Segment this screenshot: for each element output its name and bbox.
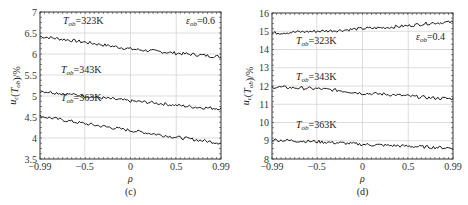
x-axis-label: ρ [127,173,133,184]
y-tick-label: 4.5 [25,112,38,123]
x-axis-label: ρ [359,173,365,184]
chart-panel-c: −0.99−0.500.50.993.544.555.566.57ρ(c)uc(… [7,7,230,199]
chart-panel-d: −0.99−0.500.50.998910111213141516ρ(d)uc(… [240,8,462,199]
y-tick-label: 3.5 [25,154,38,165]
x-tick-label: 0 [360,161,365,172]
x-tick-label: −0.5 [308,161,326,172]
y-axis-label: uc(Tob)/% [240,67,256,105]
y-tick-label: 6.5 [25,28,38,39]
y-axis-label: uc(Tob)/% [7,66,23,104]
y-tick-label: 13 [259,62,269,73]
x-tick-label: 0.5 [402,161,415,172]
y-tick-label: 14 [259,44,269,55]
y-tick-label: 10 [259,117,269,128]
panel-caption: (c) [125,186,136,198]
x-tick-label: 0 [128,161,133,172]
y-tick-label: 7 [32,7,37,18]
y-tick-label: 15 [259,26,269,37]
epsilon-annotation: εob=0.6 [186,15,215,28]
y-tick-label: 5.5 [25,70,38,81]
y-tick-label: 11 [259,99,269,110]
y-tick-label: 4 [32,133,37,144]
x-tick-label: 0.99 [212,161,230,172]
x-tick-label: 0.5 [170,161,183,172]
y-tick-label: 8 [264,154,269,165]
series-label: Tob=323K [63,15,104,28]
figure: −0.99−0.500.50.993.544.555.566.57ρ(c)uc(… [0,0,468,205]
y-tick-label: 9 [264,135,269,146]
panel-caption: (d) [357,186,369,198]
y-tick-label: 6 [32,49,37,60]
x-tick-label: −0.5 [76,161,94,172]
x-tick-label: 0.99 [444,161,462,172]
epsilon-annotation: εob=0.4 [416,31,445,44]
y-tick-label: 12 [259,81,269,92]
y-tick-label: 16 [259,8,269,19]
y-tick-label: 5 [32,91,37,102]
